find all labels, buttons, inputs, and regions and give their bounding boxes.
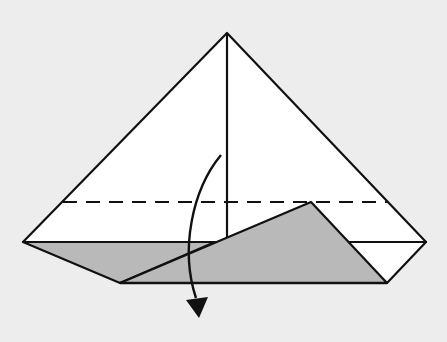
origami-diagram: [0, 0, 447, 342]
